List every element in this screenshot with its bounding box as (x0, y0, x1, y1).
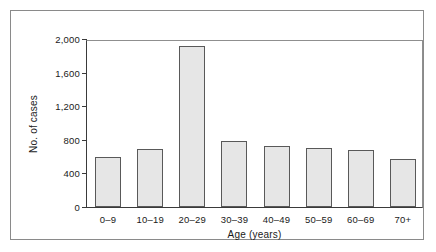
y-tick-label: 800 (64, 134, 80, 145)
bar-group: 30–39 (213, 41, 255, 207)
y-tick-mark (82, 39, 87, 40)
bar (137, 149, 163, 207)
bar-group: 40–49 (256, 41, 298, 207)
y-axis-title: No. of cases (28, 95, 39, 153)
bar-group: 50–59 (298, 41, 340, 207)
bar (390, 159, 416, 207)
bar (95, 157, 121, 207)
x-tick-label: 60–69 (347, 214, 374, 225)
bar (306, 148, 332, 207)
bar (221, 141, 247, 207)
x-axis-title: Age (years) (86, 229, 423, 240)
bar-group: 0–9 (87, 41, 129, 207)
y-tick-label: 1,600 (55, 67, 80, 78)
plot-area: 04008001,2001,6002,000 0–910–1920–2930–3… (86, 40, 423, 208)
y-tick-label: 1,200 (55, 101, 80, 112)
bar-group: 10–19 (129, 41, 171, 207)
x-tick-label: 0–9 (100, 214, 116, 225)
x-tick-label: 30–39 (221, 214, 248, 225)
y-tick-label: 0 (75, 202, 80, 213)
x-tick-label: 20–29 (179, 214, 206, 225)
x-tick-label: 70+ (395, 214, 412, 225)
bar-group: 60–69 (340, 41, 382, 207)
bar (264, 146, 290, 207)
y-tick-label: 2,000 (55, 34, 80, 45)
bar (348, 150, 374, 207)
figure-border: No. of cases 04008001,2001,6002,000 0–91… (10, 10, 424, 240)
x-tick-label: 10–19 (136, 214, 163, 225)
bar-group: 20–29 (171, 41, 213, 207)
x-tick-label: 50–59 (305, 214, 332, 225)
bar (179, 46, 205, 207)
figure-panel: No. of cases 04008001,2001,6002,000 0–91… (0, 0, 436, 252)
y-tick-label: 400 (64, 168, 80, 179)
y-tick-mark (82, 207, 87, 208)
bar-group: 70+ (382, 41, 424, 207)
x-tick-label: 40–49 (263, 214, 290, 225)
bar-series: 0–910–1920–2930–3940–4950–5960–6970+ (87, 41, 422, 207)
